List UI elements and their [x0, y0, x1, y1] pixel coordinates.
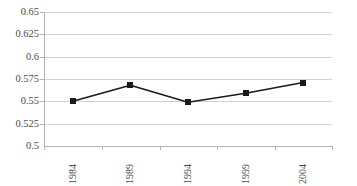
y-axis-tick-label: 0.55	[21, 96, 39, 107]
data-point-marker	[300, 80, 306, 86]
x-axis-tick-label: 2004	[298, 150, 308, 184]
line-chart: 0.65 0.625 0.6 0.575 0.55 0.525 0.5 1984…	[0, 0, 357, 186]
y-axis-labels: 0.65 0.625 0.6 0.575 0.55 0.525 0.5	[0, 0, 39, 186]
x-axis-tick	[275, 146, 276, 150]
y-axis-tick-label: 0.65	[21, 7, 39, 18]
data-point-marker	[185, 99, 191, 105]
x-axis-tick-label: 1984	[68, 150, 78, 184]
data-point-marker	[243, 90, 249, 96]
x-axis-tick	[332, 146, 333, 150]
x-axis-line	[44, 146, 333, 147]
x-axis-tick	[102, 146, 103, 150]
data-point-marker	[70, 98, 76, 104]
y-axis-tick-label: 0.575	[15, 74, 39, 85]
x-axis-tick	[44, 146, 45, 150]
x-axis-tick	[160, 146, 161, 150]
y-axis-tick-label: 0.5	[26, 141, 39, 152]
data-point-marker	[127, 82, 133, 88]
x-axis-tick-label: 1994	[183, 150, 193, 184]
x-axis-tick	[217, 146, 218, 150]
caption-sliver	[6, 180, 206, 186]
y-axis-tick-label: 0.6	[26, 52, 39, 63]
y-axis-tick-label: 0.625	[15, 29, 39, 40]
y-axis-tick-label: 0.525	[15, 119, 39, 130]
x-axis-tick-label: 1989	[125, 150, 135, 184]
x-axis-tick-label: 1999	[241, 150, 251, 184]
series-line	[44, 12, 332, 146]
